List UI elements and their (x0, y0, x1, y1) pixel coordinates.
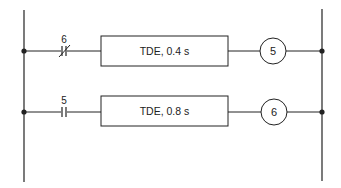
rung-2: 5 TDE, 0.8 s 6 (21, 95, 324, 126)
normally-open-contact-icon (62, 107, 66, 117)
coil-label: 5 (270, 45, 276, 57)
contact-label: 5 (61, 95, 67, 106)
rung-1: 6 TDE, 0.4 s 5 (21, 34, 324, 66)
contact-label: 6 (61, 34, 67, 45)
timer-block-label: TDE, 0.4 s (140, 45, 190, 57)
right-junction-dot (319, 48, 324, 53)
coil-label: 6 (271, 106, 277, 118)
timer-block-label: TDE, 0.8 s (140, 105, 190, 117)
right-junction-dot (319, 109, 324, 114)
ladder-diagram: 6 TDE, 0.4 s 5 5 TDE, 0.8 s 6 (0, 0, 341, 188)
